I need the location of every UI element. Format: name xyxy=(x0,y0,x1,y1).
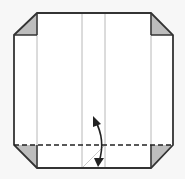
paper-sheet xyxy=(14,13,173,168)
origami-diagram xyxy=(0,0,185,179)
